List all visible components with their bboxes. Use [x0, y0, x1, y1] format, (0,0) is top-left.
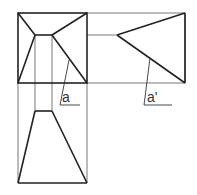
front-view [18, 13, 87, 83]
label-a-prime: a' [144, 58, 172, 105]
top-view [18, 111, 87, 183]
projection-diagram: a a' [0, 0, 197, 195]
side-view [117, 13, 185, 83]
svg-text:a: a [62, 89, 70, 105]
construction-lines [18, 13, 185, 183]
svg-text:a': a' [147, 89, 157, 105]
